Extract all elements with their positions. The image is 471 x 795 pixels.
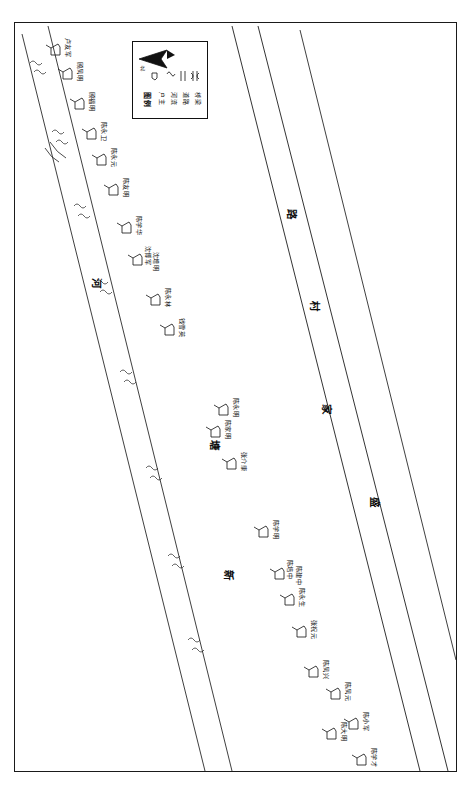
road-edge-lines (232, 26, 448, 771)
road-name-char-2: 家 (323, 404, 330, 415)
household-label: 钱雪英 (179, 318, 186, 337)
household-markers (46, 44, 366, 765)
household-label: 陈永生 (299, 588, 306, 607)
river-name-char-2: 塘 (211, 440, 218, 451)
legend-entry-household-label: 户主 (158, 92, 167, 105)
map-root: 北 图例 户主 河流 道路 桥梁 (0, 0, 471, 795)
legend-entry-bridge-label: 桥梁 (194, 92, 203, 105)
household-label: 张介康 (241, 452, 248, 471)
household-label: 顾凤明 (77, 62, 84, 81)
legend-entry-road-label: 道路 (182, 92, 191, 105)
road-name-char-1: 盛 (371, 497, 378, 508)
legend-box: 北 图例 户主 河流 道路 桥梁 (132, 41, 208, 119)
river-name-char-3: 河 (93, 278, 100, 289)
household-label: 陈学才 (371, 748, 378, 767)
household-label: 陈永林 (165, 288, 172, 307)
household-label: 沈博军 (145, 246, 152, 265)
bridge-symbol-icon (191, 71, 199, 81)
household-label: 陈永卫 (101, 122, 108, 141)
household-label: 陈凤兴 (323, 660, 330, 679)
household-label: 张祝元 (311, 620, 318, 639)
river-name-char-1: 新 (225, 570, 232, 581)
north-label: 北 (140, 65, 145, 72)
household-label: 陈建中 (296, 566, 303, 585)
river-branch (45, 142, 66, 162)
household-label: 陈学明 (273, 520, 280, 539)
household-label: 卢友军 (65, 38, 72, 57)
household-label: 陈友明 (123, 178, 130, 197)
road-name-char-3: 村 (311, 301, 318, 312)
household-label: 顾福明 (89, 92, 96, 111)
household-label: 陈培中 (287, 560, 294, 579)
household-label: 陈大明 (341, 722, 348, 741)
household-label: 陈永元 (111, 148, 118, 167)
legend-entry-river-label: 河流 (170, 92, 179, 105)
legend-symbols (149, 46, 209, 86)
household-label: 陈小军 (363, 712, 370, 731)
household-label: 陈永明 (233, 398, 240, 417)
road-symbol-icon (181, 71, 185, 81)
road-name-char-4: 路 (288, 209, 295, 220)
river-bank-lines (22, 26, 232, 771)
river-symbol-icon (167, 72, 175, 76)
road-far-shoulder (300, 30, 456, 660)
household-label: 陈家明 (225, 420, 232, 439)
legend-title: 图例 (143, 92, 153, 108)
household-symbol-icon (152, 73, 157, 80)
household-label: 陈学华 (136, 216, 143, 235)
household-label: 陈凤元 (345, 682, 352, 701)
household-label: 沈增明 (153, 252, 160, 271)
